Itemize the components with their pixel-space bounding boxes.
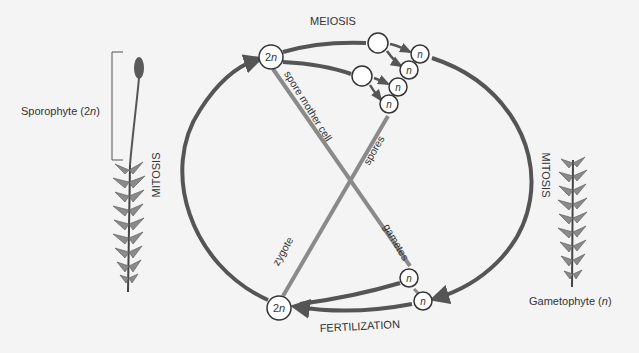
cell-haploid-spore-4: n [380, 95, 398, 113]
svg-text:n: n [406, 65, 412, 76]
svg-text:2n: 2n [273, 302, 285, 314]
cell-haploid-spore-1: n [411, 45, 429, 63]
cell-diploid-top: 2n [259, 45, 283, 69]
gametophyte-plant [558, 157, 587, 287]
cell-diploid-bottom: 2n [267, 296, 291, 320]
cell-meiosis-2 [352, 66, 372, 86]
sporophyte-capsule [134, 57, 144, 79]
life-cycle-diagram: 2n n n n n n n 2n MEIOSIS FERTILIZATION … [0, 0, 639, 353]
fertilization-arrows [298, 283, 412, 310]
svg-text:n: n [386, 99, 392, 110]
leafy-shoot-left [113, 162, 145, 292]
svg-text:n: n [420, 296, 426, 307]
sporophyte-stalk [130, 78, 139, 165]
sporophyte-bracket [112, 52, 123, 160]
cell-haploid-gamete-2: n [414, 292, 432, 310]
svg-text:2n: 2n [265, 51, 277, 63]
cell-meiosis-1 [368, 33, 388, 53]
cell-haploid-gamete-1: n [400, 269, 418, 287]
spores-label: spores [360, 133, 386, 166]
meiosis-top-arc [283, 43, 366, 52]
gametophyte-label: Gametophyte (n) [529, 295, 612, 307]
mitosis-right-label: MITOSIS [540, 152, 552, 197]
zygote-label: zygote [270, 234, 296, 267]
svg-text:n: n [395, 82, 401, 93]
meiosis-label: MEIOSIS [310, 15, 356, 27]
svg-text:n: n [406, 273, 412, 284]
sporophyte-label: Sporophyte (2n) [21, 105, 100, 117]
cell-haploid-spore-3: n [389, 78, 407, 96]
gametes-label: gametes [381, 222, 412, 263]
mitosis-left-label: MITOSIS [150, 152, 162, 197]
mitosis-right-arc [432, 58, 532, 298]
fertilization-label: FERTILIZATION [319, 318, 400, 334]
cell-haploid-spore-2: n [400, 61, 418, 79]
svg-text:n: n [417, 49, 423, 60]
sporophyte-plant [112, 52, 145, 292]
spore-mother-cell-label: spore mother cell [282, 69, 335, 144]
mitosis-left-arc [182, 60, 268, 300]
